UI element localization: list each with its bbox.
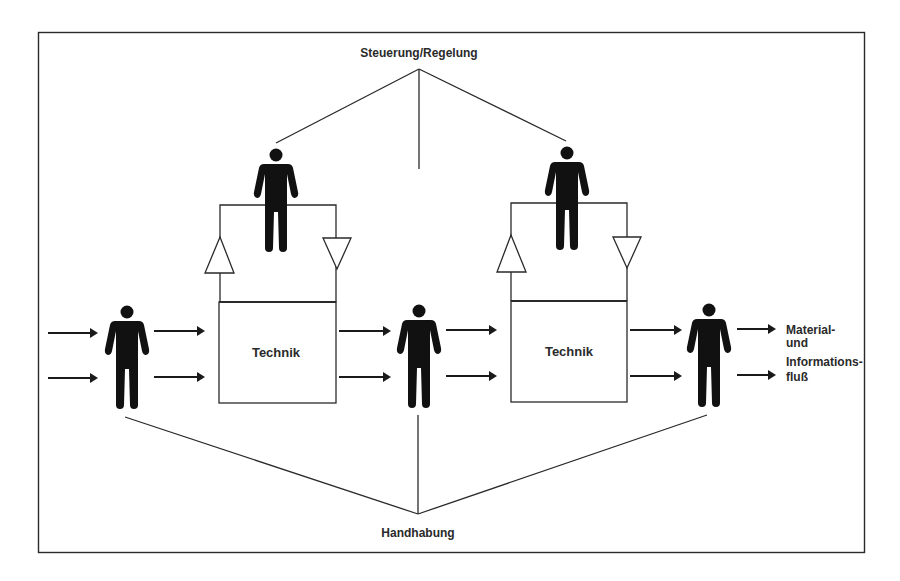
flow-arrow-6 bbox=[339, 372, 391, 382]
flow-arrow-12 bbox=[737, 370, 776, 380]
handling-line-right bbox=[418, 415, 707, 514]
diagram-frame bbox=[39, 33, 865, 553]
person-icon-handling-3 bbox=[687, 304, 731, 408]
arrow-head-icon bbox=[197, 326, 205, 336]
human-technology-system-diagram: Steuerung/Regelung Technik Technik Mater… bbox=[0, 0, 900, 581]
arrow-head-icon bbox=[197, 372, 205, 382]
technology-box-2-label: Technik bbox=[545, 344, 594, 359]
arrow-head-icon bbox=[768, 324, 776, 334]
person-icon-handling-2 bbox=[397, 305, 441, 409]
control-line-right bbox=[419, 69, 566, 141]
flow-label-line-3: Informations- bbox=[786, 355, 863, 369]
flow-arrow-4 bbox=[154, 372, 205, 382]
material-information-flow-label: Material- und Informations- fluß bbox=[786, 323, 863, 384]
handling-line-left bbox=[125, 417, 418, 514]
person-icon-control-2 bbox=[545, 147, 589, 251]
flow-arrow-2 bbox=[48, 373, 98, 383]
person-icon-control-1 bbox=[254, 149, 298, 253]
flow-arrow-8 bbox=[446, 371, 497, 381]
feedback-loop-2 bbox=[511, 203, 627, 301]
flow-arrow-10 bbox=[630, 371, 682, 381]
input-amplifier-triangle-1 bbox=[205, 237, 234, 273]
flow-label-line-2: und bbox=[786, 336, 808, 350]
flow-label-line-1: Material- bbox=[786, 323, 835, 337]
control-regulation-label: Steuerung/Regelung bbox=[360, 46, 477, 60]
output-amplifier-triangle-2 bbox=[613, 237, 641, 268]
output-amplifier-triangle-1 bbox=[323, 238, 351, 269]
arrow-head-icon bbox=[90, 373, 98, 383]
flow-arrow-5 bbox=[339, 326, 391, 336]
arrow-head-icon bbox=[90, 328, 98, 338]
arrow-head-icon bbox=[674, 371, 682, 381]
flow-arrow-1 bbox=[48, 328, 98, 338]
flow-arrow-9 bbox=[630, 325, 682, 335]
flow-arrow-11 bbox=[737, 324, 776, 334]
control-line-left bbox=[276, 69, 419, 143]
arrow-head-icon bbox=[768, 370, 776, 380]
flow-arrow-7 bbox=[446, 325, 497, 335]
flow-label-line-4: fluß bbox=[786, 370, 808, 384]
control-bracket bbox=[276, 69, 566, 169]
technology-unit-2: Technik bbox=[497, 203, 641, 402]
technology-unit-1: Technik bbox=[205, 205, 351, 403]
feedback-loop-1 bbox=[220, 205, 336, 302]
flow-arrow-3 bbox=[154, 326, 205, 336]
arrow-head-icon bbox=[489, 325, 497, 335]
arrow-head-icon bbox=[383, 326, 391, 336]
arrow-head-icon bbox=[674, 325, 682, 335]
technology-box-1-label: Technik bbox=[252, 345, 301, 360]
handling-label: Handhabung bbox=[381, 526, 454, 540]
arrow-head-icon bbox=[489, 371, 497, 381]
handling-bracket bbox=[125, 415, 707, 514]
input-amplifier-triangle-2 bbox=[497, 235, 526, 272]
person-icon-handling-1 bbox=[105, 306, 149, 410]
arrow-head-icon bbox=[383, 372, 391, 382]
